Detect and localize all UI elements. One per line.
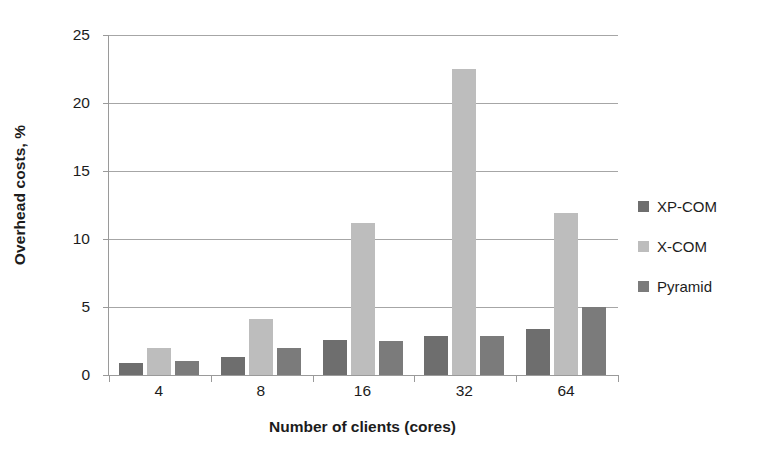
x-axis-tick-label: 32: [413, 382, 515, 400]
bar-group: [211, 35, 313, 375]
legend-item[interactable]: X-COM: [638, 226, 770, 266]
x-axis-tick-label: 4: [108, 382, 210, 400]
bar-group: [414, 35, 516, 375]
bar[interactable]: [554, 213, 578, 375]
bar[interactable]: [249, 319, 273, 375]
x-axis-tickmark: [516, 375, 517, 382]
bar[interactable]: [379, 341, 403, 375]
x-axis-tickmark: [109, 375, 110, 382]
legend-item[interactable]: Pyramid: [638, 266, 770, 306]
bar-group: [313, 35, 415, 375]
bar[interactable]: [582, 307, 606, 375]
bar[interactable]: [351, 223, 375, 375]
legend-item[interactable]: XP-COM: [638, 186, 770, 226]
bar[interactable]: [526, 329, 550, 375]
y-axis-tick-label: 10: [73, 230, 90, 248]
legend-swatch-icon: [638, 241, 649, 252]
y-axis-tick-label: 25: [73, 26, 90, 44]
bar[interactable]: [277, 348, 301, 375]
x-axis-tickmark: [618, 375, 619, 382]
y-axis-tick-label: 0: [81, 366, 90, 384]
bar-chart-figure: Overhead costs, % 0510152025 48163264 Nu…: [0, 0, 775, 476]
bar[interactable]: [147, 348, 171, 375]
bar[interactable]: [175, 361, 199, 375]
bar[interactable]: [424, 336, 448, 375]
y-axis-tick-labels: 0510152025: [44, 35, 100, 375]
x-axis-tick-label: 16: [312, 382, 414, 400]
legend-label: XP-COM: [657, 198, 717, 215]
legend-label: X-COM: [657, 238, 707, 255]
bar[interactable]: [480, 336, 504, 375]
x-axis-title: Number of clients (cores): [108, 418, 617, 436]
x-axis-tickmark: [313, 375, 314, 382]
y-axis-tick-label: 5: [81, 298, 90, 316]
y-axis-tick-label: 20: [73, 94, 90, 112]
x-axis-tick-labels: 48163264: [108, 382, 617, 410]
bar[interactable]: [452, 69, 476, 375]
x-axis-tickmark: [414, 375, 415, 382]
y-axis-title: Overhead costs, %: [0, 0, 40, 390]
bar-group: [109, 35, 211, 375]
bar[interactable]: [221, 357, 245, 375]
legend-swatch-icon: [638, 201, 649, 212]
y-axis-tick-label: 15: [73, 162, 90, 180]
x-axis-tickmark: [211, 375, 212, 382]
bar[interactable]: [323, 340, 347, 375]
legend-label: Pyramid: [657, 278, 712, 295]
x-axis-tick-label: 64: [515, 382, 617, 400]
bar[interactable]: [119, 363, 143, 375]
plot-area: [108, 35, 618, 376]
x-axis-tick-label: 8: [210, 382, 312, 400]
chart-legend: XP-COMX-COMPyramid: [638, 186, 770, 306]
bar-group: [516, 35, 618, 375]
y-axis-title-text: Overhead costs, %: [11, 125, 29, 265]
bars-layer: [109, 35, 618, 375]
legend-swatch-icon: [638, 281, 649, 292]
